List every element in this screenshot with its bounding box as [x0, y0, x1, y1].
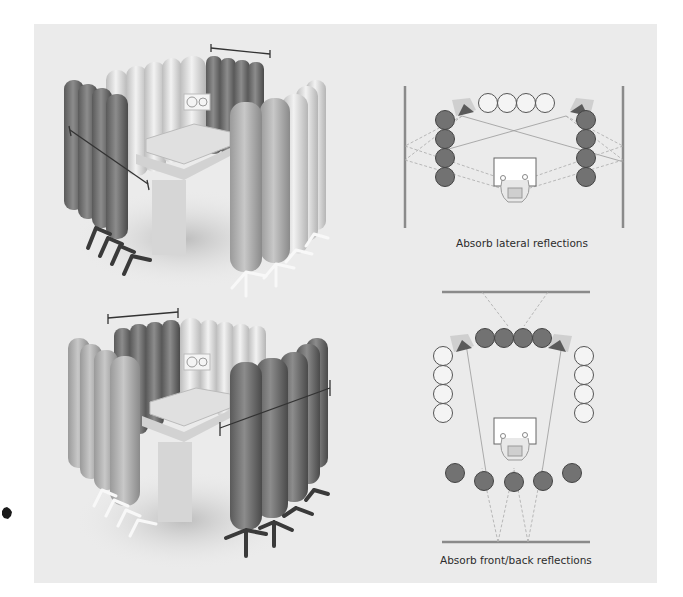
- render-lateral: [34, 24, 354, 304]
- front-tubes-dark: [476, 329, 552, 348]
- front-back-walls: [442, 292, 590, 542]
- corner-mark-icon: [1, 507, 13, 519]
- right-tubes-light: [230, 80, 328, 296]
- plan-front-back: [390, 280, 680, 570]
- right-tubes-dark: [226, 338, 328, 556]
- render-front-back: [34, 290, 354, 585]
- speaker-left-icon: [450, 334, 474, 352]
- front-tubes-light: [479, 94, 555, 113]
- caption-front-back: Absorb front/back reflections: [440, 554, 592, 566]
- rear-tubes-dark: [446, 464, 582, 492]
- side-tubes-light: [434, 347, 594, 423]
- speaker-left-icon: [452, 98, 476, 116]
- caption-lateral: Absorb lateral reflections: [456, 237, 588, 249]
